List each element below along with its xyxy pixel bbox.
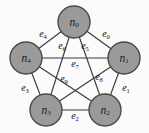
graph-node-n4[interactable]: n4 bbox=[10, 42, 42, 74]
edge-label-e7: e7 bbox=[71, 58, 79, 70]
edge-label-e4: e4 bbox=[39, 28, 47, 40]
edge-label-e5: e5 bbox=[81, 40, 89, 52]
edge-label-e3: e3 bbox=[21, 82, 29, 94]
edge-label-e1: e1 bbox=[122, 82, 130, 94]
graph-node-n3[interactable]: n3 bbox=[30, 94, 62, 126]
edge-label-e6: e6 bbox=[58, 40, 66, 52]
edge-label-e2: e2 bbox=[71, 110, 79, 122]
graph-figure: n0n1n2n3n4 e0e1e2e3e4e5e6e7e8e9 bbox=[0, 0, 149, 133]
graph-node-n2[interactable]: n2 bbox=[89, 94, 121, 126]
edge-label-e9: e9 bbox=[60, 73, 68, 85]
graph-node-n0[interactable]: n0 bbox=[58, 6, 90, 38]
graph-canvas: n0n1n2n3n4 e0e1e2e3e4e5e6e7e8e9 bbox=[0, 0, 149, 133]
edge-label-e0: e0 bbox=[102, 28, 110, 40]
graph-node-n1[interactable]: n1 bbox=[108, 42, 140, 74]
